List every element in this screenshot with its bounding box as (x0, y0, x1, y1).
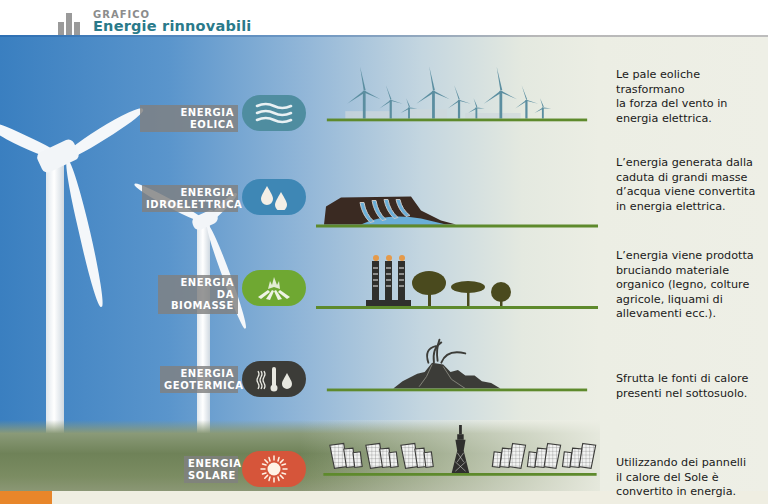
solar-farm-scene (312, 425, 608, 485)
description-idroelettrica: L’energia generata dalla caduta di grand… (616, 156, 766, 214)
bar-chart-logo-icon (58, 9, 88, 35)
label-energia-solare: ENERGIA SOLARE (184, 456, 238, 483)
pill-solare (242, 451, 306, 487)
label-energia-idroelettrica: ENERGIA IDROELETTRICA (142, 185, 238, 212)
pill-eolica (242, 95, 306, 131)
sun-icon (259, 454, 289, 484)
description-solare: Utilizzando dei pannelli il calore del S… (616, 456, 766, 500)
description-eolica: Le pale eoliche trasformano la forza del… (616, 68, 766, 126)
pill-geotermica (242, 361, 306, 397)
orange-page-tab (0, 491, 52, 504)
volcano-scene (316, 335, 598, 395)
label-energia-da-biomasse: ENERGIA DA BIOMASSE (158, 275, 238, 314)
label-energia-geotermica: ENERGIA GEOTERMICA (160, 366, 238, 393)
wind-turbine-photo-small (150, 185, 270, 445)
description-geotermica: Sfrutta le fonti di calore presenti nel … (616, 372, 766, 401)
water-drops-icon (256, 184, 292, 210)
header: GRAFICO Energie rinnovabili (0, 0, 768, 35)
campfire-icon (254, 275, 294, 301)
description-biomasse: L’energia viene prodotta bruciando mater… (616, 249, 766, 322)
wind-farm-scene (316, 65, 598, 125)
biomass-plant-scene (316, 250, 598, 310)
page-title: Energie rinnovabili (93, 18, 252, 34)
wind-waves-icon (254, 102, 294, 124)
infographic: ENERGIA EOLICA (0, 35, 768, 504)
pill-idroelettrica (242, 179, 306, 215)
pill-biomasse (242, 270, 306, 306)
hydroelectric-dam-scene (316, 177, 598, 237)
heat-thermometer-drop-icon (252, 365, 296, 393)
label-energia-eolica: ENERGIA EOLICA (140, 105, 238, 132)
